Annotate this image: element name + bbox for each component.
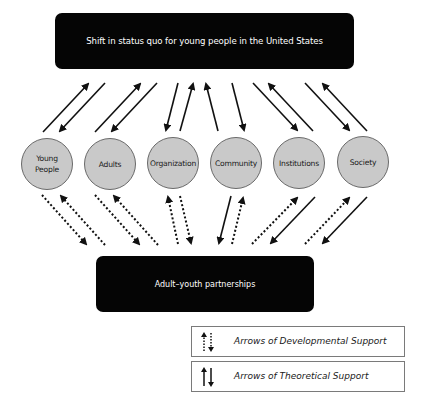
dotted-arrow-up-institutions — [252, 198, 297, 244]
dotted-arrow-down-adults — [95, 195, 139, 244]
node-label: Organization — [150, 158, 196, 169]
arrow-down-society — [305, 83, 349, 130]
node-society: Society — [337, 136, 389, 188]
dotted-bidirectional-arrows-icon — [200, 332, 218, 352]
arrow-up-community — [206, 84, 218, 131]
node-label: Adults — [99, 159, 122, 170]
dotted-arrow-up-community — [232, 198, 243, 244]
solid-bidirectional-arrows-icon — [200, 367, 218, 387]
node-community: Community — [210, 137, 262, 189]
node-label: Community — [215, 158, 257, 169]
dotted-arrow-up-society — [305, 198, 349, 244]
legend-label: Arrows of Developmental Support — [234, 327, 387, 356]
dotted-arrow-up-adults — [114, 196, 158, 245]
node-young-people: Young People — [21, 138, 73, 190]
arrow-down-organization — [166, 83, 178, 130]
dotted-arrow-up-organization — [168, 197, 178, 244]
arrow-up-society — [323, 84, 367, 131]
arrow-down-community — [232, 83, 244, 130]
solid-arrow-down-society — [323, 197, 367, 243]
node-label-line1: Young — [36, 154, 58, 163]
legend-theoretical-support: Arrows of Theoretical Support — [191, 361, 405, 392]
node-label-line2: People — [35, 165, 59, 174]
legend-label: Arrows of Theoretical Support — [234, 362, 368, 391]
partnership-box-label: Adult–youth partnerships — [155, 280, 256, 289]
node-label: Institutions — [279, 158, 319, 169]
dotted-arrow-down-young-people — [42, 195, 86, 244]
legend-developmental-support: Arrows of Developmental Support — [191, 326, 405, 357]
solid-arrow-down-institutions — [271, 197, 315, 243]
node-adults: Adults — [84, 138, 136, 190]
dotted-arrow-down-organization — [180, 196, 191, 243]
lower-arrows — [42, 195, 367, 245]
upper-solid-arrows — [43, 83, 367, 132]
node-label: Society — [350, 157, 377, 168]
partnership-box: Adult–youth partnerships — [96, 256, 314, 312]
node-institutions: Institutions — [273, 137, 325, 189]
arrow-up-organization — [180, 84, 193, 131]
solid-arrow-down-community — [219, 196, 231, 243]
dotted-arrow-up-young-people — [61, 196, 105, 245]
node-organization: Organization — [147, 137, 199, 189]
